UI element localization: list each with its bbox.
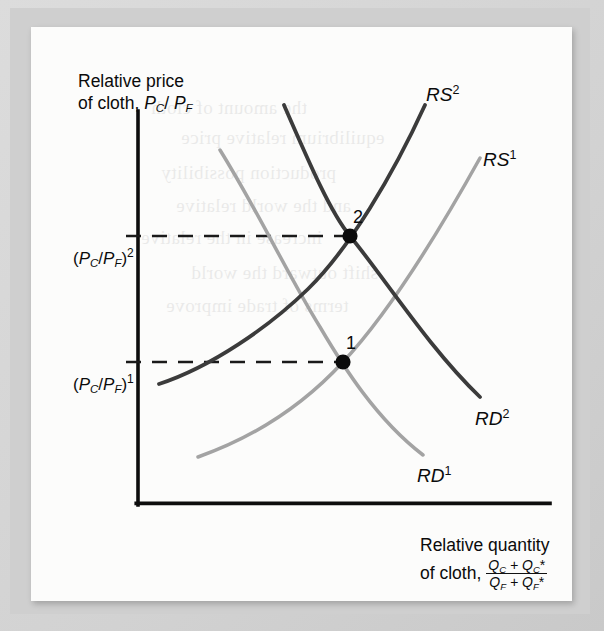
curve-label-RD2-sup: 2 bbox=[502, 407, 509, 421]
tick2-P-numerator: P bbox=[79, 249, 90, 268]
den-Q-food-foreign: Q bbox=[522, 574, 533, 590]
x-axis-title-line2: of cloth, QC + QC* QF + QF* bbox=[420, 558, 549, 590]
curve-RD2 bbox=[284, 105, 480, 397]
curve-RS1 bbox=[198, 158, 480, 457]
y-axis-title-prefix: of cloth, bbox=[78, 93, 144, 113]
y-tick-label-price-2: (PC/PF)2 bbox=[73, 249, 134, 269]
curve-label-RS2-sup: 2 bbox=[452, 83, 459, 97]
y-axis-title-line1: Relative price bbox=[78, 71, 193, 92]
den-star: * bbox=[539, 574, 544, 590]
tick1-P-numerator: P bbox=[79, 375, 90, 394]
curve-label-RD1-base: RD bbox=[417, 465, 444, 486]
curve-label-RS1-base: RS bbox=[483, 149, 509, 170]
y-axis-title-sub-C: C bbox=[156, 102, 164, 114]
y-axis-title: Relative price of cloth, PC/ PF bbox=[78, 71, 193, 113]
curve-label-RD1-sup: 1 bbox=[444, 464, 451, 478]
x-axis-fraction-denominator: QF + QF* bbox=[486, 573, 547, 590]
den-plus: + bbox=[506, 574, 522, 590]
curve-label-RD2-base: RD bbox=[475, 408, 502, 429]
curve-label-RS1: RS1 bbox=[483, 149, 516, 171]
curve-label-RS2-base: RS bbox=[426, 84, 452, 105]
y-axis-title-P-denominator: P bbox=[174, 93, 186, 113]
tick1-superscript: 1 bbox=[127, 372, 134, 386]
x-axis-title-line1: Relative quantity bbox=[420, 535, 549, 556]
curve-RS2 bbox=[159, 105, 425, 384]
x-axis-title: Relative quantity of cloth, QC + QC* QF … bbox=[420, 535, 549, 590]
tick2-superscript: 2 bbox=[127, 246, 134, 260]
x-axis-fraction: QC + QC* QF + QF* bbox=[485, 558, 548, 590]
y-axis-title-P-numerator: P bbox=[144, 93, 156, 113]
num-Q-cloth-home: Q bbox=[488, 557, 499, 573]
equilibrium-point-1-dot bbox=[335, 354, 350, 369]
figure-panel: the amount of cloth equilibrium relative… bbox=[31, 27, 572, 601]
curve-label-RS2: RS2 bbox=[426, 84, 459, 106]
equilibrium-point-2-dot bbox=[342, 228, 357, 243]
x-axis-title-prefix: of cloth, bbox=[420, 563, 481, 584]
equilibrium-point-2-label: 2 bbox=[353, 207, 363, 228]
y-axis-title-sub-F: F bbox=[186, 102, 193, 114]
curve-label-RD1: RD1 bbox=[417, 465, 451, 487]
num-Q-cloth-foreign: Q bbox=[522, 557, 533, 573]
x-axis-fraction-numerator: QC + QC* bbox=[485, 558, 548, 573]
den-Q-food-home: Q bbox=[489, 574, 500, 590]
num-star: * bbox=[540, 557, 545, 573]
y-axis-title-slash: / bbox=[164, 93, 174, 113]
y-tick-label-price-1: (PC/PF)1 bbox=[73, 375, 134, 395]
curve-label-RS1-sup: 1 bbox=[509, 148, 516, 162]
curve-label-RD2: RD2 bbox=[475, 408, 509, 430]
tick1-P-denominator: P bbox=[103, 375, 114, 394]
num-plus: + bbox=[506, 557, 522, 573]
y-axis-title-line2: of cloth, PC/ PF bbox=[78, 93, 193, 114]
equilibrium-point-1-label: 1 bbox=[346, 333, 356, 354]
tick2-P-denominator: P bbox=[103, 249, 114, 268]
